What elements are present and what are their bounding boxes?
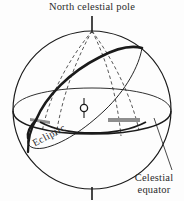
autumnal-equinox-shade: [108, 118, 140, 122]
celestial-sphere-figure: North celestial pole Celestial equator E…: [0, 0, 184, 201]
celestial-equator-back-arc: [13, 88, 171, 111]
ecliptic-back-arc: [36, 47, 142, 120]
label-celestial-equator-line-2: equator: [126, 184, 182, 196]
label-celestial-equator: Celestial equator: [126, 172, 182, 196]
sphere-outline: [13, 31, 171, 189]
celestial-equator-front-arc: [13, 111, 171, 134]
celestial-sphere-drawing: [0, 0, 184, 201]
label-north-celestial-pole: North celestial pole: [0, 1, 184, 12]
earth-symbol: [80, 98, 87, 118]
label-celestial-equator-line-1: Celestial: [126, 172, 182, 184]
earth-disc: [80, 104, 87, 111]
